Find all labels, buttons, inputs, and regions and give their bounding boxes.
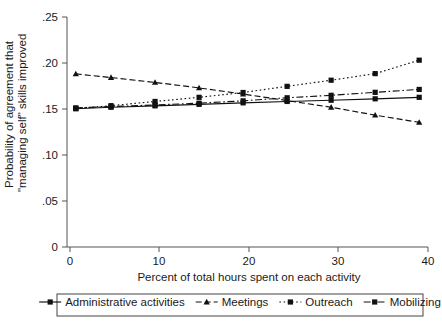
data-point-marker [285, 84, 290, 89]
data-point-marker [240, 90, 245, 95]
data-point-marker [417, 58, 422, 63]
data-point-marker [48, 299, 53, 304]
y-tick-label-015: .15 [42, 103, 58, 115]
legend-label: Mobilizing [390, 296, 441, 308]
data-point-marker [329, 93, 334, 98]
x-tick-label-0: 0 [67, 255, 73, 267]
legend-label: Meetings [222, 296, 269, 308]
x-axis-tick-labels: 0 10 20 30 40 [67, 255, 435, 267]
y-tick-label-025: .25 [42, 11, 58, 23]
data-point-marker [373, 90, 378, 95]
data-point-marker [372, 299, 377, 304]
y-axis-ticks [62, 17, 67, 247]
series-line [76, 74, 419, 122]
y-tick-label-020: .20 [42, 57, 58, 69]
series-layer [73, 58, 423, 125]
x-axis-ticks [70, 247, 428, 252]
line-chart: Probability of agreement that "managing … [0, 0, 442, 322]
series-line [76, 97, 419, 108]
data-point-marker [196, 101, 201, 106]
data-point-marker [73, 71, 79, 77]
series-administrative-activities [73, 95, 422, 112]
data-point-marker [417, 87, 422, 92]
data-point-marker [329, 78, 334, 83]
x-axis-title: Percent of total hours spent on each act… [137, 271, 360, 283]
data-point-marker [373, 71, 378, 76]
data-point-marker [108, 74, 114, 80]
data-point-marker [196, 95, 201, 100]
x-tick-label-20: 20 [243, 255, 256, 267]
data-point-marker [329, 98, 334, 103]
data-point-marker [288, 299, 293, 304]
data-point-marker [285, 95, 290, 100]
chart-figure: Probability of agreement that "managing … [0, 0, 442, 322]
legend-label: Administrative activities [65, 296, 185, 308]
x-tick-label-30: 30 [332, 255, 345, 267]
data-point-marker [417, 95, 422, 100]
y-tick-label-005: .05 [42, 195, 58, 207]
data-point-marker [240, 98, 245, 103]
y-axis-title-line2: "managing self" skills improved [16, 34, 28, 192]
series-meetings [73, 71, 423, 125]
data-point-marker [373, 96, 378, 101]
legend-label: Outreach [305, 296, 352, 308]
x-tick-label-40: 40 [422, 255, 435, 267]
data-point-marker [108, 104, 113, 109]
y-axis-tick-labels: 0 .05 .10 .15 .20 .25 [42, 11, 58, 253]
series-line [76, 60, 419, 108]
x-tick-label-10: 10 [153, 255, 166, 267]
data-point-marker [73, 105, 78, 110]
y-axis-title-line1: Probability of agreement that [3, 40, 15, 188]
y-tick-label-0: 0 [52, 241, 58, 253]
data-point-marker [152, 102, 157, 107]
y-tick-label-010: .10 [42, 149, 58, 161]
